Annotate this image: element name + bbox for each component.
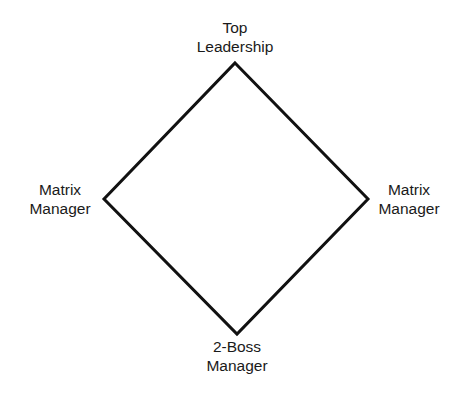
node-bottom-2-boss-manager: 2-Boss Manager bbox=[187, 337, 287, 375]
matrix-diamond-diagram: Top Leadership Matrix Manager Matrix Man… bbox=[0, 0, 464, 397]
node-top-line1: Top bbox=[185, 18, 285, 37]
node-top-leadership: Top Leadership bbox=[185, 18, 285, 56]
node-bottom-line2: Manager bbox=[187, 356, 287, 375]
node-left-line2: Manager bbox=[20, 199, 100, 218]
node-right-line2: Manager bbox=[369, 199, 449, 218]
node-left-matrix-manager: Matrix Manager bbox=[20, 180, 100, 218]
node-right-line1: Matrix bbox=[369, 180, 449, 199]
diamond-outline bbox=[104, 63, 368, 334]
node-top-line2: Leadership bbox=[185, 37, 285, 56]
node-bottom-line1: 2-Boss bbox=[187, 337, 287, 356]
node-right-matrix-manager: Matrix Manager bbox=[369, 180, 449, 218]
node-left-line1: Matrix bbox=[20, 180, 100, 199]
